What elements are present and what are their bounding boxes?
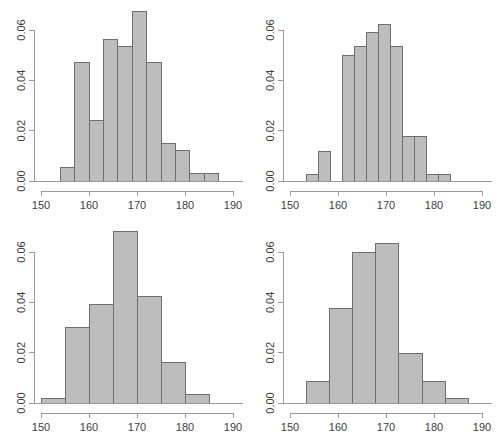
histogram-bar [65, 327, 89, 403]
x-tick-label: 190 [473, 199, 491, 211]
x-tick-label: 160 [80, 421, 98, 433]
x-axis: 150160170180190 [281, 191, 491, 211]
x-tick-label: 190 [473, 421, 491, 433]
histogram-bar [204, 174, 218, 181]
histogram-bar [118, 47, 132, 181]
histogram-bar [307, 382, 330, 403]
x-tick-label: 190 [224, 421, 242, 433]
histogram-bar [185, 395, 209, 403]
histogram-bars [307, 243, 468, 403]
histogram-bar [422, 382, 445, 403]
x-tick-label: 180 [425, 199, 443, 211]
histogram-bar [41, 399, 65, 403]
plot-area-top-left: 0.000.020.040.06150160170180190 [0, 0, 249, 221]
y-tick-label: 0.04 [15, 292, 27, 313]
x-tick-label: 170 [377, 421, 395, 433]
histogram-panel-bottom-right: 0.000.020.040.06150160170180190 [249, 222, 498, 443]
x-tick-label: 170 [377, 199, 395, 211]
y-tick-label: 0.06 [264, 19, 276, 40]
y-tick-label: 0.00 [264, 170, 276, 191]
y-tick-label: 0.00 [15, 392, 27, 413]
x-tick-label: 180 [176, 421, 194, 433]
histogram-bar [113, 232, 137, 403]
y-axis: 0.000.020.040.06 [15, 241, 34, 413]
histogram-bar [137, 297, 161, 403]
x-tick-label: 180 [425, 421, 443, 433]
x-tick-label: 150 [32, 421, 50, 433]
plot-area-bottom-left: 0.000.020.040.06150160170180190 [0, 222, 249, 443]
y-tick-label: 0.02 [15, 342, 27, 363]
y-tick-label: 0.00 [264, 392, 276, 413]
histogram-bar [161, 143, 175, 181]
histogram-panel-bottom-left: 0.000.020.040.06150160170180190 [0, 222, 249, 443]
histogram-bar [60, 167, 74, 181]
y-axis: 0.000.020.040.06 [264, 19, 283, 191]
y-tick-label: 0.02 [15, 120, 27, 141]
histogram-figure: 0.000.020.040.06150160170180190 0.000.02… [0, 0, 498, 443]
histogram-bar [147, 63, 161, 181]
x-axis: 150160170180190 [32, 191, 242, 211]
histogram-bar [399, 354, 422, 403]
x-tick-label: 160 [80, 199, 98, 211]
histogram-bar [307, 174, 319, 181]
x-tick-label: 190 [224, 199, 242, 211]
y-tick-label: 0.04 [15, 70, 27, 91]
histogram-bar [161, 363, 185, 403]
histogram-bars [41, 232, 209, 403]
histogram-bar [376, 243, 399, 403]
histogram-bar [175, 151, 189, 181]
histogram-bar [355, 47, 367, 181]
histogram-bar [75, 63, 89, 181]
x-tick-label: 170 [128, 421, 146, 433]
x-tick-label: 170 [128, 199, 146, 211]
x-tick-label: 180 [176, 199, 194, 211]
histogram-bar [353, 252, 376, 403]
y-tick-label: 0.04 [264, 70, 276, 91]
histogram-bar [403, 137, 415, 181]
x-tick-label: 150 [281, 421, 299, 433]
histogram-bar [103, 40, 117, 181]
y-tick-label: 0.06 [15, 19, 27, 40]
y-tick-label: 0.04 [264, 292, 276, 313]
histogram-bar [319, 151, 331, 181]
plot-area-bottom-right: 0.000.020.040.06150160170180190 [249, 222, 498, 443]
histogram-bar [427, 174, 439, 181]
y-axis: 0.000.020.040.06 [15, 19, 34, 191]
plot-area-top-right: 0.000.020.040.06150160170180190 [249, 0, 498, 221]
histogram-bar [89, 121, 103, 181]
y-tick-label: 0.02 [264, 120, 276, 141]
histogram-bar [445, 399, 468, 403]
x-tick-label: 160 [329, 199, 347, 211]
histogram-bar [343, 55, 355, 181]
x-axis: 150160170180190 [32, 413, 242, 433]
histogram-bar [379, 24, 391, 181]
histogram-bar [439, 174, 451, 181]
y-tick-label: 0.02 [264, 342, 276, 363]
histogram-bars [307, 24, 451, 181]
y-tick-label: 0.06 [264, 241, 276, 262]
x-tick-label: 150 [281, 199, 299, 211]
histogram-bar [190, 174, 204, 181]
histogram-bar [415, 137, 427, 181]
x-axis: 150160170180190 [281, 413, 491, 433]
y-axis: 0.000.020.040.06 [264, 241, 283, 413]
x-tick-label: 150 [32, 199, 50, 211]
y-tick-label: 0.06 [15, 241, 27, 262]
x-tick-label: 160 [329, 421, 347, 433]
histogram-bar [367, 33, 379, 181]
histogram-panel-top-right: 0.000.020.040.06150160170180190 [249, 0, 498, 221]
y-tick-label: 0.00 [15, 170, 27, 191]
histogram-bar [391, 47, 403, 181]
histogram-bar [89, 304, 113, 403]
histogram-bar [330, 309, 353, 403]
histogram-bar [132, 12, 146, 181]
histogram-bars [60, 12, 218, 181]
histogram-panel-top-left: 0.000.020.040.06150160170180190 [0, 0, 249, 221]
